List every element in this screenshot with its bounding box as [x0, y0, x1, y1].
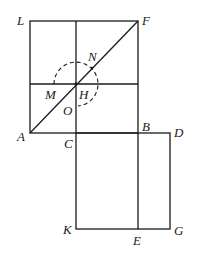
- label-b: B: [142, 120, 150, 133]
- rectangle-cdgk: [76, 133, 170, 229]
- label-o: O: [63, 104, 72, 117]
- geometry-diagram: [0, 0, 197, 263]
- diagonal-af: [30, 21, 138, 133]
- label-e: E: [133, 234, 141, 247]
- label-n: N: [88, 50, 97, 63]
- label-l: L: [17, 14, 24, 27]
- point-h: [75, 83, 78, 86]
- label-k: K: [63, 223, 72, 236]
- label-m: M: [45, 88, 56, 101]
- point-n: [91, 67, 93, 69]
- label-g: G: [174, 224, 183, 237]
- label-f: F: [142, 14, 150, 27]
- label-d: D: [174, 126, 183, 139]
- label-c: C: [64, 137, 73, 150]
- label-a: A: [17, 130, 25, 143]
- label-h: H: [79, 88, 88, 101]
